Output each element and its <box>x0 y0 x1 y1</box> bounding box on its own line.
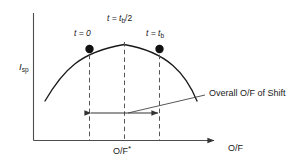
marker-label-tb-main: t = t <box>146 28 160 38</box>
data-point-t0 <box>85 45 93 53</box>
marker-label-t0-text: t = 0 <box>74 28 91 38</box>
annotation-leader-line <box>128 95 205 113</box>
x-axis-label: O/F <box>228 144 243 153</box>
y-axis-label: Isp <box>19 62 29 72</box>
marker-label-tb-half-main: t = t <box>107 13 121 23</box>
overall-shift-annotation: Overall O/F of Shift <box>209 89 286 98</box>
overall-shift-annotation-text: Overall O/F of Shift <box>209 88 286 98</box>
data-point-tb <box>155 45 163 53</box>
marker-label-t0: t = 0 <box>74 29 91 38</box>
x-tick-label-optimum-star: * <box>128 144 131 153</box>
isp-vs-of-diagram: Isp t = 0 t = tb/2 t = tb O/F* O/F Overa… <box>0 0 299 161</box>
y-axis-label-sub: sp <box>22 66 29 73</box>
isp-curve <box>45 45 197 102</box>
x-tick-label-optimum-main: O/F <box>113 146 128 156</box>
x-tick-label-optimum: O/F* <box>113 144 131 156</box>
marker-label-tb-sub: b <box>160 32 164 39</box>
x-axis-label-text: O/F <box>228 143 243 153</box>
marker-label-tb: t = tb <box>146 29 164 38</box>
marker-label-tb-half-suffix: /2 <box>125 13 132 23</box>
marker-label-tb-half: t = tb/2 <box>107 14 132 23</box>
marker-label-tb-half-sub: b <box>121 17 125 24</box>
diagram-canvas <box>0 0 299 161</box>
